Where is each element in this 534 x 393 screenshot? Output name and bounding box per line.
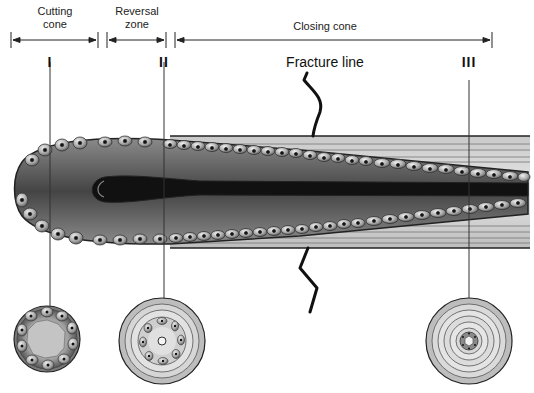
section-label-i: I	[40, 54, 60, 70]
cross-section-i	[14, 306, 80, 372]
reversal-zone-label: Reversal zone	[106, 5, 168, 30]
fracture-line-label: Fracture line	[270, 54, 380, 70]
section-label-iii: III	[455, 54, 483, 70]
reversal-zone-label-line1: Reversal	[106, 5, 168, 18]
dimension-lines	[11, 32, 492, 48]
section-label-ii: II	[152, 54, 176, 70]
cross-section-iii	[426, 298, 512, 384]
cutting-cone-label-line2: cone	[20, 18, 90, 31]
cutting-cone-label: Cutting cone	[20, 5, 90, 30]
cutting-cone-label-line1: Cutting	[20, 5, 90, 18]
closing-cone-label: Closing cone	[255, 20, 395, 33]
bone-remodeling-diagram	[0, 0, 534, 393]
reversal-zone-label-line2: zone	[106, 18, 168, 31]
cross-section-ii	[119, 298, 205, 384]
